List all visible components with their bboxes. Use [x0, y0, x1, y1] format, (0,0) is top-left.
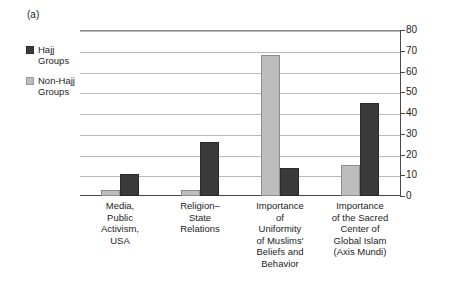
bar-group-media-public-activism-usa: [80, 31, 160, 196]
bar-group-religion-state-relations: [160, 31, 240, 196]
y-tick-label-60: 60: [406, 67, 417, 77]
y-tick-label-40: 40: [406, 108, 417, 118]
bar-non-hajj[interactable]: [181, 190, 200, 196]
y-tick-label-50: 50: [406, 87, 417, 97]
y-tick-mark: [400, 175, 405, 176]
bar-hajj[interactable]: [200, 142, 219, 196]
y-tick-label-0: 0: [406, 191, 412, 201]
y-tick-label-80: 80: [406, 25, 417, 35]
legend-swatch-icon-hajj: [26, 46, 34, 54]
y-tick-label-70: 70: [406, 46, 417, 56]
bar-non-hajj[interactable]: [341, 165, 360, 196]
x-category-label: Importance of the Sacred Center of Globa…: [320, 200, 400, 269]
plot-area: [80, 30, 400, 196]
plot-frame: [80, 30, 400, 196]
bar-groups: [80, 31, 400, 196]
bar-non-hajj[interactable]: [261, 55, 280, 196]
y-tick-mark: [400, 134, 405, 135]
legend-swatch-icon-non-hajj: [26, 77, 34, 85]
y-tick-label-10: 10: [406, 170, 417, 180]
bar-hajj[interactable]: [120, 174, 139, 196]
x-category-label: Importance of Uniformity of Muslims' Bel…: [240, 200, 320, 269]
y-tick-mark: [400, 30, 405, 31]
bar-group-importance-sacred-center: [320, 31, 400, 196]
y-tick-label-30: 30: [406, 129, 417, 139]
y-tick-mark: [400, 155, 405, 156]
legend-item-hajj-groups: Hajj Groups: [26, 44, 84, 66]
bar-hajj[interactable]: [360, 103, 379, 196]
y-tick-label-20: 20: [406, 150, 417, 160]
bar-group-importance-of-uniformity: [240, 31, 320, 196]
x-axis-category-labels: Media, Public Activism, USA Religion– St…: [80, 200, 400, 269]
y-tick-mark: [400, 92, 405, 93]
legend-item-non-hajj-groups: Non-Hajj Groups: [26, 75, 84, 97]
y-tick-mark: [400, 196, 405, 197]
y-tick-mark: [400, 72, 405, 73]
legend-label-hajj: Hajj Groups: [38, 44, 69, 66]
bar-hajj[interactable]: [280, 168, 299, 196]
y-tick-mark: [400, 113, 405, 114]
panel-label: (a): [27, 9, 39, 21]
x-category-label: Media, Public Activism, USA: [80, 200, 160, 269]
chart-legend: Hajj Groups Non-Hajj Groups: [26, 44, 84, 106]
bar-non-hajj[interactable]: [101, 190, 120, 196]
x-category-label: Religion– State Relations: [160, 200, 240, 269]
legend-label-non-hajj: Non-Hajj Groups: [38, 75, 75, 97]
y-tick-mark: [400, 51, 405, 52]
